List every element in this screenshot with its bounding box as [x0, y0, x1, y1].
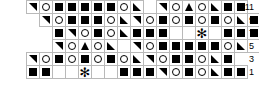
chart-cell-sq [182, 39, 196, 53]
chart-cell-tu [65, 26, 79, 40]
chart-cell-ci [65, 39, 79, 53]
chart-cell-sq [221, 65, 235, 79]
tl-icon [107, 42, 115, 50]
chart-row [26, 0, 247, 14]
tl-icon [133, 3, 141, 11]
chart-cell-ci [91, 39, 105, 53]
chart-cell-as [78, 65, 92, 79]
chart-cell-sq [208, 13, 222, 27]
sq-icon [224, 3, 232, 11]
as-icon [79, 66, 91, 78]
chart-cell-sq [52, 0, 66, 14]
row-label: 1 [236, 65, 254, 79]
chart-cell-ci [169, 13, 183, 27]
stitch-pattern-chart: 1197531 [0, 0, 259, 89]
chart-cell-ci [65, 52, 79, 66]
chart-cell-ci [169, 0, 183, 14]
tu-icon [42, 16, 50, 24]
chart-cell-ci [221, 39, 235, 53]
chart-cell-sq [65, 0, 79, 14]
ci-icon [120, 3, 128, 11]
chart-cell-empty [208, 26, 222, 40]
chart-cell-empty [169, 26, 183, 40]
ci-icon [172, 68, 180, 76]
chart-cell-tu [130, 39, 144, 53]
ci-icon [224, 42, 232, 50]
tl-icon [211, 68, 219, 76]
chart-cell-sq [26, 65, 40, 79]
chart-row [26, 52, 234, 66]
chart-cell-sq [39, 65, 53, 79]
sq-icon [29, 68, 37, 76]
chart-cell-tl [117, 13, 131, 27]
chart-cell-tl [117, 26, 131, 40]
chart-cell-ci [195, 0, 209, 14]
chart-cell-ci [195, 52, 209, 66]
chart-cell-sq [143, 26, 157, 40]
tu-icon [133, 42, 141, 50]
ci-icon [120, 55, 128, 63]
chart-cell-sq [91, 26, 105, 40]
tl-icon [133, 55, 141, 63]
chart-cell-ci [221, 13, 235, 27]
chart-cell-as [195, 26, 209, 40]
chart-cell-tl [104, 39, 118, 53]
sq-icon [224, 29, 232, 37]
chart-cell-sq [104, 52, 118, 66]
chart-cell-ci [39, 52, 53, 66]
ci-icon [146, 16, 154, 24]
chart-cell-sq [195, 39, 209, 53]
tu-icon [68, 29, 76, 37]
ci-icon [146, 42, 154, 50]
ci-icon [42, 3, 50, 11]
chart-cell-sq [156, 26, 170, 40]
tl-icon [120, 29, 128, 37]
chart-cell-tl [130, 0, 144, 14]
sq-icon [133, 29, 141, 37]
chart-cell-sq [182, 13, 196, 27]
ci-icon [55, 16, 63, 24]
chart-cell-tu [26, 0, 40, 14]
chart-cell-sq [156, 39, 170, 53]
chart-cell-tc [182, 0, 196, 14]
chart-cell-tc [78, 39, 92, 53]
tu-icon [159, 3, 167, 11]
chart-cell-tl [208, 52, 222, 66]
ci-icon [172, 16, 180, 24]
chart-cell-sq [130, 26, 144, 40]
chart-cell-empty [65, 65, 79, 79]
chart-cell-sq [221, 26, 235, 40]
sq-icon [68, 16, 76, 24]
ci-icon [68, 55, 76, 63]
chart-cell-empty [52, 65, 66, 79]
chart-cell-sq [182, 52, 196, 66]
chart-cell-sq [65, 13, 79, 27]
ci-icon [198, 55, 206, 63]
chart-cell-blank [143, 0, 157, 14]
chart-cell-ci [104, 13, 118, 27]
chart-cell-sq [78, 0, 92, 14]
sq-icon [159, 16, 167, 24]
chart-cell-ci [169, 65, 183, 79]
chart-cell-tu [143, 52, 157, 66]
tc-icon [185, 3, 193, 11]
chart-cell-tl [130, 52, 144, 66]
as-icon [196, 27, 208, 39]
chart-row [26, 65, 247, 79]
chart-cell-sq [169, 39, 183, 53]
sq-icon [55, 3, 63, 11]
sq-icon [81, 3, 89, 11]
chart-cell-sq [143, 65, 157, 79]
tu-icon [55, 42, 63, 50]
chart-cell-sq [78, 52, 92, 66]
sq-icon [94, 3, 102, 11]
chart-cell-empty [182, 26, 196, 40]
chart-row [39, 13, 259, 27]
tc-icon [81, 42, 89, 50]
chart-cell-sq [52, 26, 66, 40]
sq-icon [159, 42, 167, 50]
tl-icon [211, 3, 219, 11]
ci-icon [107, 16, 115, 24]
row-label: 7 [236, 26, 254, 40]
chart-cell-sq [169, 52, 183, 66]
